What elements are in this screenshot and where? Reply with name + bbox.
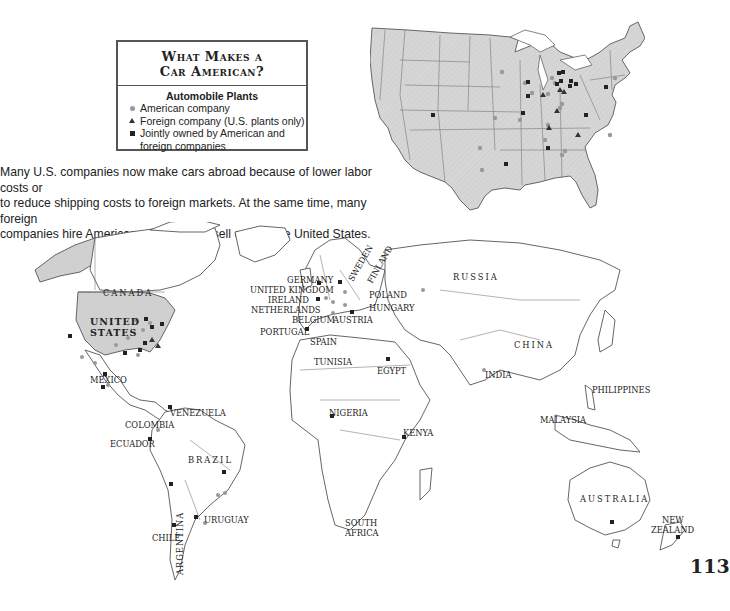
legend-label: Jointly owned by American and foreign co…	[140, 127, 285, 152]
label-kenya: KENYA	[403, 428, 433, 438]
legend-label-line2: foreign companies	[140, 140, 226, 152]
label-united-states-2: STATES	[90, 327, 137, 338]
tasmania	[612, 540, 620, 548]
japan	[598, 310, 615, 352]
label-poland: POLAND	[369, 290, 407, 300]
label-argentina: ARGENTINA	[175, 512, 185, 575]
label-tunisia: TUNISIA	[314, 357, 352, 367]
label-mexico: MEXICO	[90, 375, 127, 385]
label-philippines: PHILIPPINES	[592, 385, 650, 395]
label-netherlands: NETHERLANDS	[251, 305, 321, 315]
legend-label-line1: Jointly owned by American and	[140, 127, 285, 139]
canada	[90, 225, 220, 292]
label-spain: SPAIN	[310, 337, 337, 347]
legend-item-american: American company	[118, 102, 306, 115]
label-egypt: EGYPT	[377, 366, 406, 376]
label-portugal: PORTUGAL	[260, 327, 309, 337]
label-uruguay: URUGUAY	[204, 515, 249, 525]
label-hungary: HUNGARY	[369, 303, 415, 313]
mexico	[85, 350, 175, 420]
legend-title-line1: What Makes a	[118, 49, 306, 64]
label-india: INDIA	[485, 370, 511, 380]
label-south-africa-1: SOUTH	[345, 518, 377, 528]
label-belgium: BELGIUM	[292, 315, 335, 325]
label-venezuela: VENEZUELA	[170, 408, 226, 418]
label-canada: CANADA	[103, 288, 153, 298]
greenland	[235, 226, 290, 262]
legend-item-joint: Jointly owned by American and foreign co…	[118, 127, 306, 152]
legend-subtitle: Automobile Plants	[118, 90, 306, 102]
alaska	[35, 238, 100, 282]
us-inset-map	[370, 8, 645, 213]
label-new-zealand-1: NEW	[662, 515, 684, 525]
legend-item-foreign: Foreign company (U.S. plants only)	[118, 115, 306, 128]
label-united-states-1: UNITED	[90, 316, 140, 327]
label-ecuador: ECUADOR	[110, 439, 155, 449]
label-china: CHINA	[514, 340, 554, 350]
label-russia: RUSSIA	[453, 272, 499, 282]
legend-label: American company	[140, 102, 230, 115]
circle-icon	[127, 102, 137, 115]
label-austria: AUSTRIA	[333, 315, 373, 325]
label-ireland: IRELAND	[268, 295, 309, 305]
madagascar	[420, 468, 432, 500]
square-icon	[127, 127, 137, 140]
page-number: 113	[690, 555, 730, 577]
us-outline	[370, 22, 645, 210]
label-brazil: BRAZIL	[188, 455, 233, 465]
label-new-zealand-2: ZEALAND	[651, 525, 694, 535]
label-australia: AUSTRALIA	[580, 494, 649, 504]
map-legend: What Makes a Car American? Automobile Pl…	[116, 40, 308, 151]
label-germany: GERMANY	[287, 275, 333, 285]
caption-line1: Many U.S. companies now make cars abroad…	[0, 165, 400, 196]
label-south-africa-2: AFRICA	[345, 528, 379, 538]
label-nigeria: NIGERIA	[329, 408, 368, 418]
label-united-kingdom: UNITED KINGDOM	[250, 285, 334, 295]
label-colombia: COLOMBIA	[125, 420, 174, 430]
label-malaysia: MALAYSIA	[540, 415, 586, 425]
legend-title: What Makes a Car American?	[118, 42, 306, 86]
south-america	[150, 408, 245, 580]
legend-label: Foreign company (U.S. plants only)	[140, 115, 305, 128]
triangle-icon	[127, 115, 137, 128]
legend-title-line2: Car American?	[118, 64, 306, 79]
russia-asia	[385, 240, 620, 385]
